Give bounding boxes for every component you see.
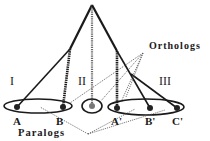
node-II: [89, 103, 95, 109]
branch-root-right: [92, 5, 117, 51]
group-II-label: II: [78, 74, 86, 88]
leaf-label-B: B: [56, 115, 64, 127]
tree-branches: [17, 5, 177, 108]
leaf-label-A: A: [13, 115, 21, 127]
node-A: [14, 104, 20, 110]
branch-to-B: [63, 49, 70, 107]
group-I-label: I: [10, 74, 14, 88]
leaf-nodes: [14, 103, 180, 111]
paralogs-label: Paralogs: [18, 127, 65, 138]
orthologs-label: Orthologs: [149, 40, 201, 51]
group-III-label: III: [159, 74, 171, 88]
leaf-label-C-prime: C': [172, 115, 183, 127]
gene-tree-diagram: I II III A B A' B' C' Orthologs Paralogs: [0, 0, 210, 141]
node-A-prime: [114, 105, 120, 111]
node-C-prime: [174, 105, 180, 111]
diagram-svg: I II III A B A' B' C' Orthologs Paralogs: [0, 0, 210, 141]
leaf-label-B-prime: B': [145, 115, 155, 127]
branch-root-left: [70, 5, 92, 49]
node-B: [60, 104, 66, 110]
node-B-prime: [147, 105, 153, 111]
leaf-label-A-prime: A': [111, 115, 122, 127]
